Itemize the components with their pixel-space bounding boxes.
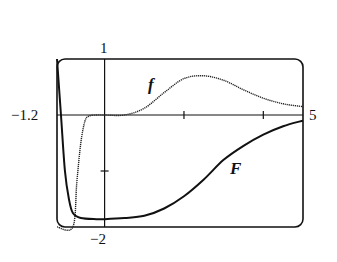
xmax-label: 5: [309, 108, 317, 123]
xmin-label: −1.2: [11, 108, 38, 123]
curve-f: [57, 76, 303, 231]
graph-canvas: [0, 0, 337, 262]
ymin-label: −2: [90, 232, 106, 247]
curve-F: [57, 59, 303, 219]
curve-F-label: F: [230, 160, 241, 177]
curve-f-label: f: [148, 76, 154, 93]
window-frame: [57, 59, 303, 227]
ymax-label: 1: [100, 41, 108, 56]
